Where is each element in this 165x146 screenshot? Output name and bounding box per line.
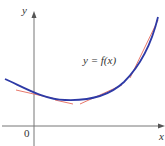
x-axis-arrow-icon [158,124,165,129]
y-axis-label: y [21,4,27,16]
function-curve [5,17,158,100]
y-axis-arrow-icon [32,11,37,18]
x-axis-label: x [158,130,164,142]
origin-label: 0 [24,127,30,139]
curve-label: y = f(x) [82,54,116,67]
diagram-canvas: y x 0 y = f(x) [0,0,165,146]
